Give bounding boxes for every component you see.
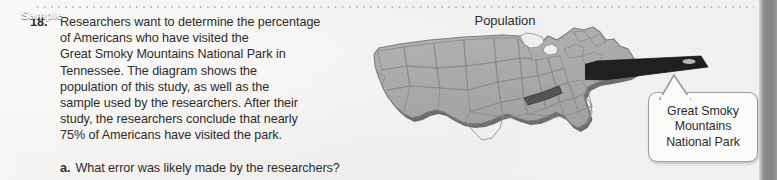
problem-line: study, the researchers conclude that nea… — [60, 111, 320, 127]
sample-label: Sample — [21, 8, 63, 21]
page-edge-shadow — [759, 0, 777, 180]
problem-row: 18. Researchers want to determine the pe… — [30, 14, 360, 144]
callout-label: Great Smoky Mountains National Park — [666, 104, 740, 150]
problem-line: Tennessee. The diagram shows the — [60, 63, 320, 79]
callout-pointer-tail — [650, 68, 710, 100]
problem-line: sample used by the researchers. After th… — [60, 95, 320, 111]
page-surface: 18. Researchers want to determine the pe… — [0, 0, 777, 180]
problem-line: 75% of Americans have visited the park. — [60, 127, 320, 143]
problem-line: Great Smoky Mountains National Park in — [60, 46, 320, 62]
part-a-letter: a. — [60, 160, 70, 176]
problem-line: population of this study, as well as the — [60, 79, 320, 95]
problem-text: Researchers want to determine the percen… — [60, 14, 320, 144]
problem-block: 18. Researchers want to determine the pe… — [30, 14, 360, 144]
united-states-map-icon — [352, 24, 682, 164]
problem-part-a: a. What error was likely made by the res… — [60, 160, 340, 176]
part-a-text: What error was likely made by the resear… — [75, 160, 339, 176]
callout-box: Great Smoky Mountains National Park — [648, 92, 758, 162]
problem-line: Researchers want to determine the percen… — [60, 14, 320, 30]
problem-line: of Americans who have visited the — [60, 30, 320, 46]
